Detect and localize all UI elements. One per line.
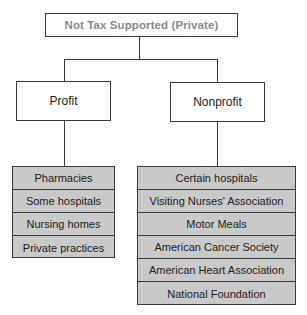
list-item: American Heart Association [138, 259, 295, 282]
nonprofit-node-box: Nonprofit [170, 82, 265, 122]
list-item: Certain hospitals [138, 167, 295, 190]
profit-node-box: Profit [16, 81, 111, 121]
list-item: Pharmacies [13, 167, 114, 190]
list-item: Private practices [13, 236, 114, 259]
list-item: Nursing homes [13, 213, 114, 236]
profit-examples-list: Pharmacies Some hospitals Nursing homes … [12, 166, 115, 258]
connector-to-profit [64, 59, 65, 81]
nonprofit-examples-list: Certain hospitals Visiting Nurses' Assoc… [137, 166, 296, 305]
connector-root-down [139, 37, 140, 60]
root-node-label: Not Tax Supported (Private) [65, 19, 219, 31]
nonprofit-node-label: Nonprofit [193, 95, 242, 109]
list-item: National Foundation [138, 282, 295, 305]
connector-horizontal [64, 59, 218, 60]
list-item: Motor Meals [138, 213, 295, 236]
connector-to-nonprofit [217, 59, 218, 82]
list-item: Some hospitals [13, 190, 114, 213]
connector-profit-to-list [64, 121, 65, 166]
connector-nonprofit-to-list [217, 122, 218, 166]
list-item: American Cancer Society [138, 236, 295, 259]
list-item: Visiting Nurses' Association [138, 190, 295, 213]
profit-node-label: Profit [49, 94, 77, 108]
root-node-box: Not Tax Supported (Private) [45, 13, 238, 37]
